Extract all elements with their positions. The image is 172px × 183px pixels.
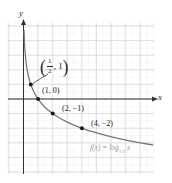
data-point [36,97,40,101]
data-point [80,126,84,130]
function-label: f(x) = log1/2 x [90,144,130,154]
function-label-prefix: f(x) = log [90,143,119,152]
y-axis-label: y [19,9,23,18]
y-axis-arrow-icon [21,19,26,25]
data-point [51,112,55,116]
point-label-4-neg2: (4, −2) [91,120,113,128]
x-axis-label: x [158,93,162,102]
numerator: 1 [48,58,52,65]
function-label-arg: x [125,143,130,152]
left-paren: ( [40,57,46,76]
point-label-1-0: (1, 0) [42,87,59,95]
data-point [29,82,33,86]
denominator: 2 [48,68,52,75]
fraction: 1 2 [47,58,53,75]
right-paren: ) [63,57,69,76]
point-label-2-neg1: (2, −1) [62,105,84,113]
axes [8,19,158,174]
point-label-half-one: ( 1 2 , 1 ) [40,58,68,75]
log-graph [0,0,172,183]
